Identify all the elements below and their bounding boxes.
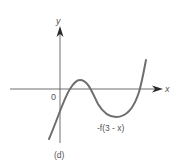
panel-label: (d) (54, 150, 65, 160)
function-graph: x y 0 -f(3 - x) (d) (0, 0, 177, 167)
origin-label: 0 (51, 92, 56, 102)
y-axis-label: y (55, 16, 61, 26)
curve-label: -f(3 - x) (97, 123, 125, 133)
x-axis-label: x (164, 84, 170, 94)
